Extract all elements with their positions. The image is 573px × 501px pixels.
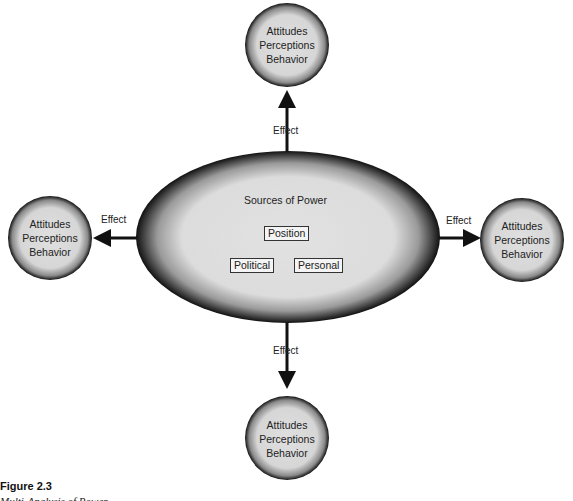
outcome-line: Attitudes	[245, 418, 329, 432]
effect-label-bottom: Effect	[273, 345, 298, 356]
effect-label-left: Effect	[101, 214, 126, 225]
effect-label-right: Effect	[446, 215, 471, 226]
arrowhead-left	[93, 229, 111, 247]
outcome-right-text: Attitudes Perceptions Behavior	[480, 219, 564, 261]
effect-label-top: Effect	[273, 125, 298, 136]
outcome-line: Behavior	[245, 52, 329, 66]
outcome-line: Perceptions	[480, 233, 564, 247]
outcome-line: Behavior	[480, 247, 564, 261]
outcome-line: Behavior	[245, 446, 329, 460]
outcome-bottom-text: Attitudes Perceptions Behavior	[245, 418, 329, 460]
outcome-line: Perceptions	[8, 231, 92, 245]
outcome-line: Perceptions	[245, 38, 329, 52]
outcome-line: Attitudes	[245, 24, 329, 38]
arrowhead-top	[278, 90, 296, 108]
source-position: Position	[264, 226, 309, 241]
outcome-line: Attitudes	[480, 219, 564, 233]
figure-number: Figure 2.3	[0, 480, 52, 492]
arrowhead-bottom	[278, 371, 296, 389]
outcome-line: Perceptions	[245, 432, 329, 446]
source-political: Political	[230, 258, 274, 273]
outcome-top-text: Attitudes Perceptions Behavior	[245, 24, 329, 66]
outcome-left-text: Attitudes Perceptions Behavior	[8, 217, 92, 259]
outcome-line: Attitudes	[8, 217, 92, 231]
arrowhead-right	[463, 229, 481, 247]
source-personal: Personal	[294, 258, 343, 273]
sources-title: Sources of Power	[244, 194, 327, 206]
figure-subtitle: Multi-Analysis of Power	[0, 494, 108, 501]
outcome-line: Behavior	[8, 245, 92, 259]
